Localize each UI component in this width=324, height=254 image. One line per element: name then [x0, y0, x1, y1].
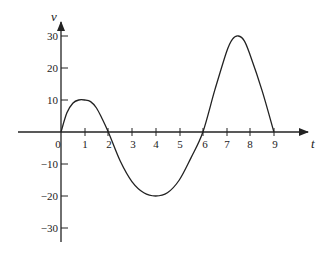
svg-text:6: 6	[202, 138, 208, 150]
svg-text:−20: −20	[41, 190, 59, 202]
svg-text:1: 1	[82, 138, 88, 150]
y-axis-label: v	[51, 9, 57, 24]
svg-text:−30: −30	[41, 222, 59, 234]
svg-text:3: 3	[130, 138, 136, 150]
svg-text:7: 7	[224, 138, 230, 150]
svg-text:4: 4	[153, 138, 159, 150]
velocity-time-chart: v t 0 1 2 3 4 5 6 7 8 9 30 20 10 −10	[0, 0, 324, 254]
svg-text:10: 10	[47, 94, 59, 106]
x-tick-labels: 0 1 2 3 4 5 6 7 8 9	[55, 138, 278, 150]
svg-text:0: 0	[55, 138, 61, 150]
svg-text:8: 8	[247, 138, 253, 150]
velocity-curve	[61, 36, 274, 196]
svg-text:5: 5	[177, 138, 183, 150]
x-axis-label: t	[311, 136, 315, 151]
svg-text:30: 30	[47, 30, 59, 42]
svg-text:20: 20	[47, 62, 59, 74]
svg-text:9: 9	[272, 138, 278, 150]
svg-text:−10: −10	[41, 158, 59, 170]
